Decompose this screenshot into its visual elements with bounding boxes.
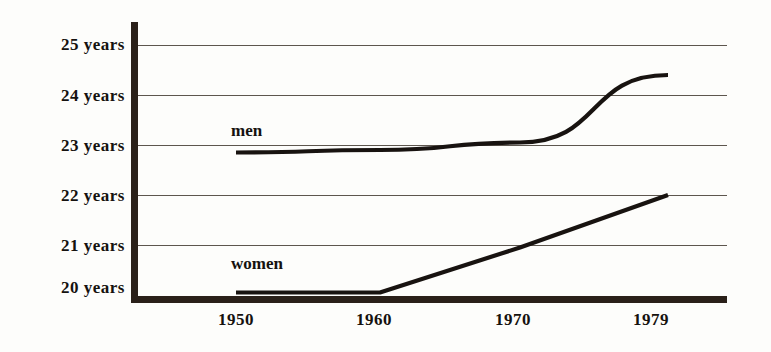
y-tick-label-20: 20 years (7, 278, 125, 298)
x-tick-label-1970: 1970 (468, 310, 558, 330)
x-tick-label-1960: 1960 (329, 310, 419, 330)
gridline-22-years (136, 195, 727, 196)
series-line-men (236, 75, 668, 153)
gridline-21-years (136, 245, 727, 246)
x-axis (131, 296, 727, 303)
y-tick-label-21: 21 years (7, 236, 125, 256)
chart-figure: 25 years 24 years 23 years 22 years 21 y… (0, 0, 771, 352)
y-axis-tick-labels: 25 years 24 years 23 years 22 years 21 y… (0, 0, 125, 352)
gridline-25-years (136, 45, 727, 46)
series-label-men: men (231, 121, 262, 141)
y-axis (131, 22, 138, 303)
x-tick-label-1979: 1979 (606, 310, 696, 330)
gridline-23-years (136, 145, 727, 146)
y-tick-label-24: 24 years (7, 86, 125, 106)
y-tick-label-23: 23 years (7, 136, 125, 156)
x-tick-label-1950: 1950 (191, 310, 281, 330)
series-line-women (236, 195, 668, 293)
y-tick-label-22: 22 years (7, 186, 125, 206)
y-tick-label-25: 25 years (7, 35, 125, 55)
gridline-24-years (136, 95, 727, 96)
series-label-women: women (231, 254, 283, 274)
